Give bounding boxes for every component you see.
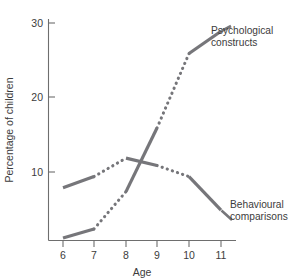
x-tick-label-6: 6 xyxy=(60,249,66,261)
y-tick-label-20: 20 xyxy=(31,91,43,103)
x-axis-title: Age xyxy=(133,266,152,278)
behavioural-annotation-line2: comparisons xyxy=(230,211,288,223)
y-tick-label-10: 10 xyxy=(31,166,43,178)
psychological-annotation-line2: constructs xyxy=(211,37,273,49)
x-tick-label-11: 11 xyxy=(216,249,227,261)
psychological-segment-9-10 xyxy=(157,54,189,129)
psychological-constructs-annotation: Psychological constructs xyxy=(211,25,273,48)
behavioural-segment-7-8 xyxy=(94,158,126,177)
psychological-segment-6-7 xyxy=(63,229,94,238)
behavioural-segment-6-7 xyxy=(63,177,94,188)
behavioural-annotation-line1: Behavioural xyxy=(230,199,288,211)
x-tick-label-7: 7 xyxy=(91,249,97,261)
x-tick-label-9: 9 xyxy=(154,249,160,261)
behavioural-segment-9-10 xyxy=(157,166,189,177)
psychological-segment-7-8 xyxy=(94,192,126,229)
behavioural-segment-10-11 xyxy=(189,177,221,211)
psychological-annotation-line1: Psychological xyxy=(211,25,273,37)
y-axis-title: Percentage of children xyxy=(3,77,15,182)
series-psychological-constructs xyxy=(63,31,221,238)
x-tick-label-10: 10 xyxy=(183,249,195,261)
y-tick-label-30: 30 xyxy=(31,17,43,29)
behavioural-comparisons-annotation: Behavioural comparisons xyxy=(230,199,288,222)
series-behavioural-comparisons xyxy=(63,158,221,210)
x-tick-label-8: 8 xyxy=(123,249,129,261)
line-chart: 30 20 10 6 7 8 9 10 11 Age Percentage of… xyxy=(0,0,302,279)
